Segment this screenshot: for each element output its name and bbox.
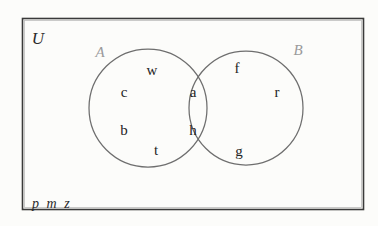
venn-diagram-graphics <box>0 0 378 226</box>
set-a-label: A <box>95 45 104 60</box>
member-a: a <box>190 85 197 100</box>
outside-members-list: pmz <box>32 196 70 212</box>
outside-member-z: z <box>64 196 70 211</box>
set-b-label: B <box>293 43 302 58</box>
member-f: f <box>235 61 240 76</box>
member-c: c <box>121 85 128 100</box>
member-r: r <box>275 85 280 100</box>
outside-member-p: p <box>32 196 40 211</box>
venn-diagram-figure: U A B w c b t a h f r g pmz <box>0 0 378 226</box>
member-t: t <box>154 143 158 158</box>
member-h: h <box>189 123 197 138</box>
member-b: b <box>120 123 128 138</box>
universe-rectangle-inner-edge <box>25 21 362 208</box>
universe-label: U <box>32 30 44 47</box>
outside-member-m: m <box>47 196 58 211</box>
set-b-circle <box>189 51 303 165</box>
member-w: w <box>147 63 158 78</box>
member-g: g <box>235 144 243 159</box>
universe-rectangle <box>23 19 364 210</box>
